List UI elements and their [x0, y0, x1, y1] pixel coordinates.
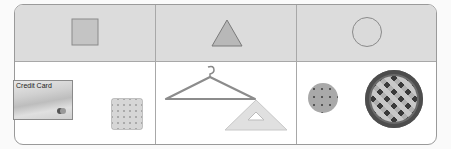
column-divider [296, 5, 297, 144]
card-logo-icon [57, 108, 65, 114]
set-square-image [224, 99, 288, 131]
column-divider [155, 5, 156, 144]
clothes-hanger-image [162, 64, 262, 104]
triangle-icon [210, 18, 244, 48]
square-icon [71, 18, 99, 46]
credit-card-label: Credit Card [16, 82, 52, 89]
cracker-image [111, 98, 143, 130]
credit-card-image: Credit Card [13, 80, 73, 120]
cookie-image [308, 83, 338, 113]
circle-icon [351, 16, 383, 48]
pie-image [365, 70, 423, 128]
